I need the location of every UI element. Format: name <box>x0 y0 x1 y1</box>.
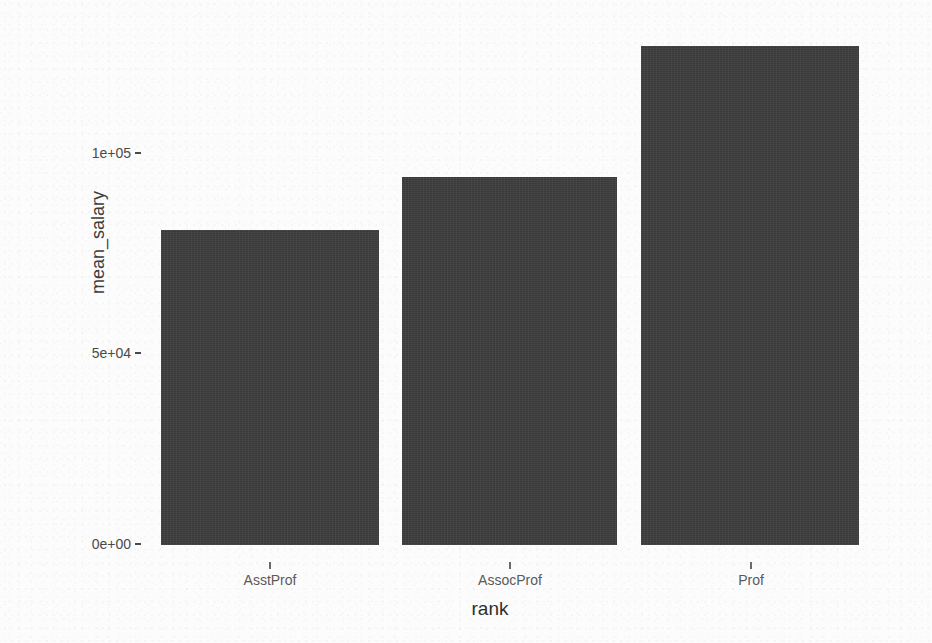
bar-chart-plot-panel: 0e+00 5e+04 1e+05 AsstProf AssocProf Pro… <box>0 0 932 643</box>
x-tick-label-prof: Prof <box>651 572 851 588</box>
bar-asstprof <box>161 230 379 545</box>
x-tick-mark-asstprof <box>269 562 271 569</box>
bar-assocprof <box>402 177 617 545</box>
bar-prof <box>641 46 859 545</box>
y-tick-label-0: 0e+00 <box>55 536 131 552</box>
x-tick-mark-assocprof <box>509 562 511 569</box>
y-tick-mark-0 <box>135 543 141 545</box>
x-tick-mark-prof <box>750 562 752 569</box>
x-axis-title: rank <box>0 598 932 620</box>
x-tick-label-assocprof: AssocProf <box>410 572 610 588</box>
x-axis-title-text: rank <box>472 598 509 620</box>
y-tick-label-1: 5e+04 <box>55 345 131 361</box>
y-tick-mark-2 <box>135 152 141 154</box>
chart-page: 0e+00 5e+04 1e+05 AsstProf AssocProf Pro… <box>0 0 932 643</box>
y-tick-mark-1 <box>135 352 141 354</box>
x-tick-label-asstprof: AsstProf <box>170 572 370 588</box>
y-tick-label-2: 1e+05 <box>55 145 131 161</box>
y-axis-title: mean_salary <box>88 173 109 313</box>
